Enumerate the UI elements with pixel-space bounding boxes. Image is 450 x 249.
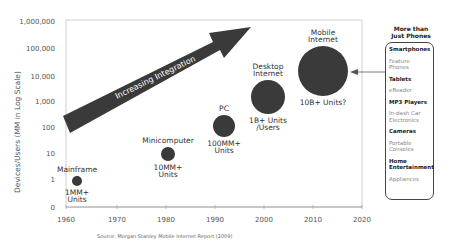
bubble-units: /Users (256, 123, 280, 132)
y-tick-label: 1,000,000 (19, 18, 55, 26)
y-tick-label: 100,000 (26, 45, 55, 53)
y-tick-label: 100 (42, 124, 55, 132)
x-tick-label: 1990 (206, 216, 224, 224)
device-list-item: Feature Phones (389, 58, 433, 71)
x-tick-label: 1980 (157, 216, 175, 224)
connector-arrow (350, 69, 386, 75)
arrow-label: Increasing Integration (114, 54, 197, 101)
bubble-pc: PC100MM+Units (207, 104, 241, 155)
x-tick-label: 2020 (353, 216, 371, 224)
bubble-mainframe: Mainframe1MM+Units (57, 165, 98, 204)
y-tick-label: 1 (51, 176, 55, 184)
y-tick-label: 10 (46, 150, 55, 158)
y-axis-label: Devices/Users (MM in Log Scale) (13, 71, 22, 193)
x-tick-label: 1960 (57, 216, 75, 224)
device-list-item: eReader (389, 87, 433, 94)
sidebar-heading: More than Just Phones (386, 25, 436, 39)
device-list-item: Home Entertainment (389, 158, 433, 171)
device-list-item: MP3 Players (389, 99, 433, 106)
y-tick-label: 1,000 (35, 98, 55, 106)
bubble-units: Units (158, 170, 177, 179)
bubble-units: 10B+ Units? (300, 98, 347, 107)
sidebar-heading-text: More than Just Phones (391, 25, 431, 39)
bubble-units: Units (214, 146, 233, 155)
device-list-item: In-dash Car Electronics (389, 110, 433, 123)
bubble-units: Units (67, 195, 86, 204)
device-list-item: Cameras (389, 128, 433, 135)
bubble-name: Minicomputer (142, 136, 194, 145)
device-list-item: Smartphones (389, 46, 433, 53)
device-list-box: SmartphonesFeature PhonesTabletseReaderM… (385, 42, 434, 200)
device-list-item: Tablets (389, 76, 433, 83)
bubble-desktop: DesktopInternet1B+ Units/Users (249, 62, 287, 132)
bubble-name: Internet (253, 69, 283, 78)
x-axis-ticks: 1960197019801990200020102020 (57, 205, 371, 224)
bubble-minicomputer: Minicomputer10MM+Units (142, 136, 194, 179)
bubble-name: Internet (308, 35, 338, 44)
y-tick-label: 0 (51, 204, 55, 212)
bubble-mobile: MobileInternet10B+ Units? (298, 28, 348, 107)
x-tick-label: 2000 (255, 216, 273, 224)
bubble-name: PC (219, 104, 229, 113)
bubble-chart: 1,000,000100,00010,0001,0001001010 19601… (0, 0, 450, 249)
device-list-item: Appliances (389, 176, 433, 183)
x-tick-label: 2010 (304, 216, 322, 224)
y-axis-ticks: 1,000,000100,00010,0001,0001001010 (19, 18, 55, 212)
x-tick-label: 1970 (108, 216, 126, 224)
device-list-item: Portable Consoles (389, 140, 433, 153)
source-note: Source: Morgan Stanley Mobile Internet R… (97, 233, 232, 239)
bubble-name: Mainframe (57, 165, 98, 174)
y-tick-label: 10,000 (31, 73, 56, 81)
